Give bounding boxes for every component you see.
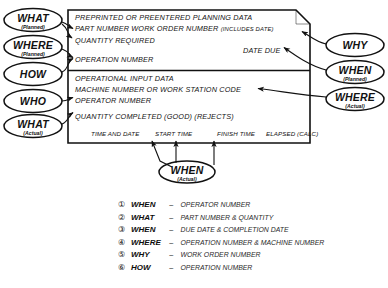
connector-what-planned-quantity xyxy=(62,24,72,38)
legend-item-2-value: PART NUMBER & QUANTITY xyxy=(173,214,273,221)
legend-item-4-value: OPERATION NUMBER & MACHINE NUMBER xyxy=(173,239,324,246)
form-actual-line-2: OPERATOR NUMBER xyxy=(75,97,151,104)
form-column-time-and-date: TIME AND DATE xyxy=(91,131,139,137)
legend-item-5-value: WORK ORDER NUMBER xyxy=(173,251,260,258)
legend-item-6: ⑥ HOW – OPERATION NUMBER xyxy=(118,263,378,276)
legend-item-5-key: WHY xyxy=(131,250,167,259)
legend-item-3-value: DUE DATE & COMPLETION DATE xyxy=(173,226,288,233)
form-column-elapsed: ELAPSED (CALC) xyxy=(266,131,318,137)
form-planned-line-3: OPERATION NUMBER xyxy=(75,56,153,63)
legend-item-6-number: ⑥ xyxy=(118,263,131,272)
node-why-label: WHY xyxy=(326,40,384,51)
form-planned-line-1-note: (INCLUDES DATE) xyxy=(221,26,274,32)
form-actual-heading: OPERATIONAL INPUT DATA xyxy=(75,75,174,82)
connector-where-actual-machine-number xyxy=(258,89,326,98)
legend-item-1-key: WHEN xyxy=(131,200,167,209)
legend-item-6-value: OPERATION NUMBER xyxy=(173,264,252,271)
legend-item-1-number: ① xyxy=(118,200,131,209)
legend-item-2-key: WHAT xyxy=(131,213,167,222)
connector-why-includes-date xyxy=(302,32,326,45)
legend-item-4: ④ WHERE – OPERATION NUMBER & MACHINE NUM… xyxy=(118,238,378,251)
legend-item-5-number: ⑤ xyxy=(118,250,131,259)
legend-item-3-key: WHEN xyxy=(131,225,167,234)
legend-item-4-number: ④ xyxy=(118,238,131,247)
form-actual-line-1: MACHINE NUMBER OR WORK STATION CODE xyxy=(75,86,241,93)
form-planned-line-2: QUANTITY REQUIRED xyxy=(75,37,155,44)
form-planned-line-1: PART NUMBER WORK ORDER NUMBER (INCLUDES … xyxy=(75,25,274,33)
node-where-actual-label: WHERE (Actual) xyxy=(326,92,384,109)
form-date-due-field: DATE DUE xyxy=(243,47,281,54)
form-column-finish-time: FINISH TIME xyxy=(217,131,255,137)
node-how-label: HOW xyxy=(4,69,62,80)
diagram-page: WHAT (Planned) WHERE (Planned) HOW WHO W… xyxy=(0,0,388,288)
form-column-start-time: START TIME xyxy=(155,131,192,137)
connector-when-planned-date-due xyxy=(284,48,326,71)
form-planned-heading: PREPRINTED OR PREENTERED PLANNING DATA xyxy=(75,14,252,21)
legend-item-2: ② WHAT – PART NUMBER & QUANTITY xyxy=(118,213,378,226)
node-what-planned-label: WHAT (Planned) xyxy=(4,13,62,30)
node-where-planned-label: WHERE (Planned) xyxy=(4,40,62,57)
legend-item-1: ① WHEN – OPERATOR NUMBER xyxy=(118,200,378,213)
form-actual-line-3: QUANTITY COMPLETED (GOOD) (REJECTS) xyxy=(75,113,234,120)
legend: ① WHEN – OPERATOR NUMBER ② WHAT – PART N… xyxy=(118,200,378,276)
legend-item-1-value: OPERATOR NUMBER xyxy=(173,201,250,208)
legend-item-3-number: ③ xyxy=(118,225,131,234)
legend-item-2-number: ② xyxy=(118,213,131,222)
legend-item-3: ③ WHEN – DUE DATE & COMPLETION DATE xyxy=(118,225,378,238)
node-who-label: WHO xyxy=(4,96,62,107)
legend-item-4-key: WHERE xyxy=(131,238,167,247)
legend-item-5: ⑤ WHY – WORK ORDER NUMBER xyxy=(118,250,378,263)
node-what-actual-label: WHAT (Actual) xyxy=(4,119,62,136)
legend-item-6-key: HOW xyxy=(131,263,167,272)
form-planned-line-1-text: PART NUMBER WORK ORDER NUMBER xyxy=(75,24,221,33)
node-when-planned-label: WHEN (Planned) xyxy=(326,65,384,82)
node-when-actual-label: WHEN (Actual) xyxy=(159,165,215,182)
